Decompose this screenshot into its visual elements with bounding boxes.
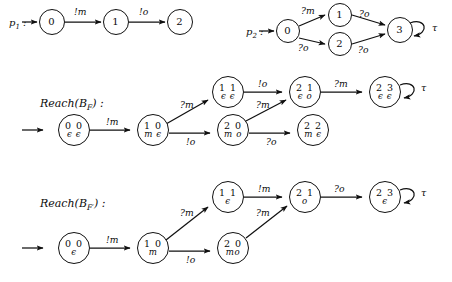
state-node-p2-3[interactable]: 3 xyxy=(387,17,413,43)
state-buffer: ϵ o xyxy=(298,92,313,101)
state-buffer: o xyxy=(302,197,308,206)
tau-self-loop-label: τ xyxy=(421,82,426,93)
state-node-p1-1[interactable]: 1 xyxy=(103,9,129,35)
edge-label: !m xyxy=(106,116,118,127)
state-node-bfp-00[interactable]: 0 0 ϵ xyxy=(58,232,90,264)
state-buffer: m xyxy=(149,248,158,257)
state-buffer: m ϵ xyxy=(144,130,162,139)
edge-label: ?m xyxy=(180,99,194,110)
edge-label: ?m xyxy=(256,99,270,110)
state-buffer: ϵ ϵ xyxy=(67,130,81,139)
state-node-p2-1[interactable]: 1 xyxy=(328,3,352,27)
tau-self-loop-label: τ xyxy=(432,22,437,33)
edge-label: !o xyxy=(139,6,148,17)
edge-label: ?o xyxy=(334,183,344,194)
state-node-p1-0[interactable]: 0 xyxy=(39,9,65,35)
row-label-reach-bf: Reach(BF) : xyxy=(40,97,104,112)
state-label: 1 xyxy=(336,10,343,20)
edge-label: ?m xyxy=(334,78,348,89)
state-buffer: mo xyxy=(226,248,241,257)
state-buffer: m o xyxy=(224,130,242,139)
edge-label: ?o xyxy=(359,8,369,19)
state-buffer: m ϵ xyxy=(304,130,322,139)
edge-label: !o xyxy=(186,136,195,147)
edge-label: ?m xyxy=(301,5,315,16)
automata-figure: p1 : 0 1 2 !m !o p2 : 0 1 2 3 ?m ?o ?o ?… xyxy=(0,0,452,282)
state-label: 0 xyxy=(284,26,291,36)
state-node-p2-0[interactable]: 0 xyxy=(276,19,300,43)
state-node-bf-21[interactable]: 2 1 ϵ o xyxy=(289,76,321,108)
edge-label: ?o xyxy=(266,136,276,147)
row-label-reach-bf-prime: Reach(BF′) : xyxy=(40,197,105,212)
edge-label: ?o xyxy=(358,44,368,55)
process-label-p2: p2 : xyxy=(246,26,263,40)
state-buffer: ϵ xyxy=(382,197,387,206)
state-node-bf-22[interactable]: 2 2 m ϵ xyxy=(297,114,329,146)
edge-label: !m xyxy=(106,234,118,245)
state-node-bfp-10[interactable]: 1 0 m xyxy=(137,232,169,264)
tau-self-loop-label: τ xyxy=(421,187,426,198)
edge-label: !o xyxy=(258,78,267,89)
state-label: 1 xyxy=(112,17,119,27)
state-buffer: ϵ ϵ xyxy=(378,92,392,101)
edge-label: !o xyxy=(186,254,195,265)
edge-label: !m xyxy=(258,183,270,194)
state-node-bfp-23[interactable]: 2 3 ϵ xyxy=(369,181,401,213)
state-label: 2 xyxy=(336,39,343,49)
edge-label: ?o xyxy=(298,42,308,53)
edge-label: !m xyxy=(74,6,86,17)
state-node-bf-11[interactable]: 1 1 ϵ ϵ xyxy=(212,76,244,108)
state-node-bfp-20[interactable]: 2 0 mo xyxy=(217,232,249,264)
edge-label: ?m xyxy=(256,207,270,218)
state-buffer: ϵ xyxy=(225,197,230,206)
process-label-p1: p1 : xyxy=(9,17,26,31)
state-node-bf-00[interactable]: 0 0 ϵ ϵ xyxy=(58,114,90,146)
state-node-bf-10[interactable]: 1 0 m ϵ xyxy=(137,114,169,146)
edge-label: ?m xyxy=(180,207,194,218)
state-label: 2 xyxy=(176,17,183,27)
state-label: 3 xyxy=(396,25,403,35)
state-node-p1-2[interactable]: 2 xyxy=(167,9,193,35)
state-buffer: ϵ ϵ xyxy=(221,92,235,101)
state-node-bfp-21[interactable]: 2 1 o xyxy=(289,181,321,213)
state-label: 0 xyxy=(48,17,55,27)
state-node-bfp-11[interactable]: 1 1 ϵ xyxy=(212,181,244,213)
state-buffer: ϵ xyxy=(71,248,76,257)
state-node-p2-2[interactable]: 2 xyxy=(328,32,352,56)
state-node-bf-23[interactable]: 2 3 ϵ ϵ xyxy=(369,76,401,108)
state-node-bf-20[interactable]: 2 0 m o xyxy=(217,114,249,146)
